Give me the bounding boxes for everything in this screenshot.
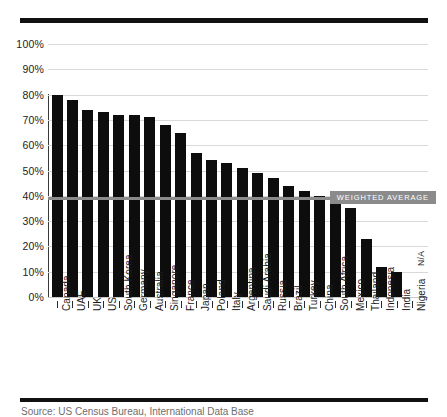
missing-value-marker: N/A <box>416 251 426 266</box>
y-tick-label-50pct: 50% <box>0 165 44 177</box>
x-axis-label: South Korea <box>123 254 134 311</box>
x-axis-label: UK <box>92 297 103 311</box>
y-tick-label-70pct: 70% <box>0 114 44 126</box>
source-note: Source: US Census Bureau, International … <box>21 406 254 417</box>
x-axis-label: Poland <box>216 279 227 311</box>
bar <box>221 163 232 297</box>
y-tick-label-100pct: 100% <box>0 38 44 50</box>
x-axis-label: US <box>107 297 118 311</box>
x-axis-category-labels: CanadaUAEUKUSSouth KoreaGermanyAustralia… <box>48 299 428 395</box>
x-axis-label: Canada <box>61 275 72 311</box>
y-tick-label-30pct: 30% <box>0 215 44 227</box>
x-axis-label: Brazil <box>293 285 304 311</box>
gridline-90 <box>48 69 428 70</box>
plot-area: WEIGHTED AVERAGE <box>48 44 428 297</box>
y-tick-label-80pct: 80% <box>0 89 44 101</box>
bar <box>206 160 217 297</box>
bar <box>191 153 202 297</box>
y-tick-label-0pct: 0% <box>0 291 44 303</box>
gridline-80 <box>48 95 428 96</box>
x-axis-label: UAE <box>76 290 87 311</box>
y-tick-label-40pct: 40% <box>0 190 44 202</box>
x-axis-label: Mexico <box>355 279 366 311</box>
top-divider-rule <box>20 18 428 23</box>
x-axis-label: Russia <box>277 280 288 311</box>
x-axis-label: Argentina <box>246 267 257 311</box>
x-axis-label: Germany <box>138 269 149 311</box>
y-tick-label-10pct: 10% <box>0 266 44 278</box>
x-axis-label: Thailand <box>370 272 381 311</box>
x-axis-label: France <box>185 279 196 311</box>
x-axis-label: Nigeria <box>416 279 427 311</box>
x-axis-label: South Africa <box>339 256 350 311</box>
y-tick-label-20pct: 20% <box>0 240 44 252</box>
bar <box>98 112 109 297</box>
x-axis-label: Indonesia <box>385 267 396 311</box>
weighted-average-label: WEIGHTED AVERAGE <box>330 191 436 204</box>
y-tick-label-60pct: 60% <box>0 139 44 151</box>
x-axis-label: Singapore <box>169 265 180 312</box>
bottom-divider-rule <box>20 398 428 402</box>
bar <box>82 110 93 297</box>
x-axis-label: Turkey <box>308 280 319 311</box>
x-axis-label: China <box>324 284 335 311</box>
x-axis-label: Saudi Arabia <box>262 253 273 311</box>
gridline-100 <box>48 44 428 45</box>
x-axis-label: India <box>401 289 412 311</box>
x-axis-label: Japan <box>200 283 211 311</box>
bar <box>52 95 63 297</box>
x-axis-label: Italy <box>231 292 242 311</box>
y-tick-label-90pct: 90% <box>0 63 44 75</box>
x-axis-label: Australia <box>154 271 165 311</box>
